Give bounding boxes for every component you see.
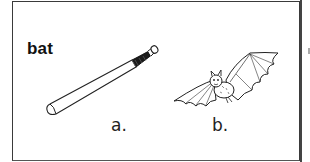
choice-b-picture[interactable] xyxy=(170,50,282,112)
adjacent-card-mark xyxy=(308,48,310,54)
baseball-bat-icon xyxy=(40,40,164,120)
choice-b-label: b. xyxy=(212,115,228,135)
choice-a-picture[interactable] xyxy=(40,40,164,120)
adjacent-card-border xyxy=(300,0,302,162)
bat-animal-icon xyxy=(170,50,282,112)
choice-a-label: a. xyxy=(111,115,127,135)
